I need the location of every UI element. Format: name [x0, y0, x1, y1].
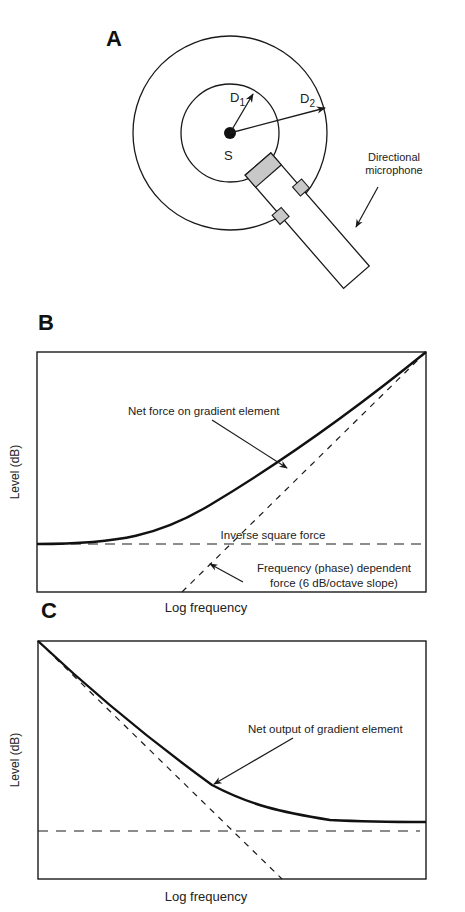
net-output-arrow [214, 738, 293, 784]
y-axis-label-c: Level (dB) [8, 733, 22, 788]
net-force-arrow [212, 420, 287, 468]
net-force-curve [37, 352, 426, 544]
frequency-force-label-line2: force (6 dB/octave slope) [270, 577, 398, 589]
mic-pointer-arrow [356, 187, 378, 227]
x-axis-label-b: Log frequency [165, 600, 248, 615]
figure-canvas: A S D1 D2 Directional microphone B Level… [0, 0, 465, 912]
panel-b: B Level (dB) Log frequency Net force on … [8, 310, 426, 615]
mic-label-line2: microphone [365, 164, 422, 176]
source-label: S [224, 148, 233, 163]
frequency-force-arrow [210, 564, 243, 582]
frequency-slope-line-c [38, 641, 282, 879]
panel-c-letter: C [41, 598, 57, 623]
panel-a: A S D1 D2 Directional microphone [106, 26, 423, 292]
plot-frame-c [38, 641, 426, 879]
frequency-slope-line-b [182, 352, 426, 592]
y-axis-label-b: Level (dB) [8, 445, 22, 500]
x-axis-label-c: Log frequency [165, 889, 248, 904]
net-output-label: Net output of gradient element [248, 723, 404, 735]
mic-label-line1: Directional [368, 151, 420, 163]
plot-frame-b [37, 352, 426, 592]
d2-arrow [230, 108, 325, 133]
panel-a-letter: A [106, 26, 122, 51]
net-force-label: Net force on gradient element [128, 405, 280, 417]
frequency-force-label-line1: Frequency (phase) dependent [257, 562, 412, 574]
d2-label: D2 [300, 91, 315, 109]
panel-b-letter: B [38, 310, 54, 335]
panel-c: C Level (dB) Log frequency Net output of… [8, 598, 426, 904]
directional-microphone [241, 149, 374, 292]
d1-label: D1 [230, 90, 245, 108]
inverse-square-label: Inverse square force [221, 529, 326, 541]
